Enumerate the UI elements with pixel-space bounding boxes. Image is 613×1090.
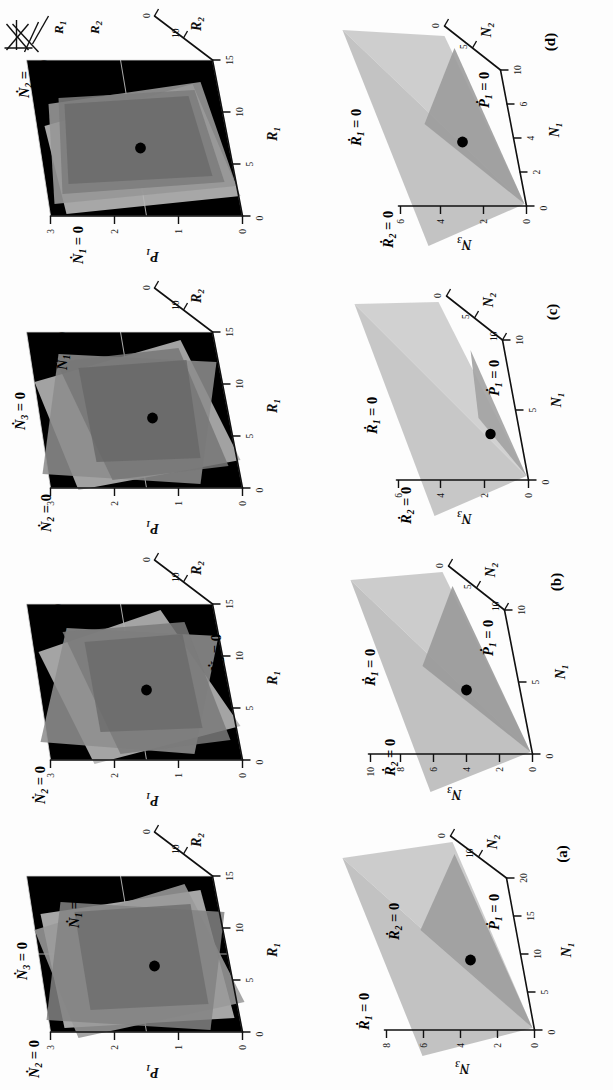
surface-label-n3: Ṅ3 = 0 — [13, 942, 31, 981]
z-axis-label: N3 — [446, 785, 462, 802]
tick: 5 — [244, 161, 254, 166]
tick: 15 — [224, 327, 234, 337]
tick: 0 — [254, 215, 264, 220]
tick: 0 — [521, 219, 531, 224]
tick: 5 — [458, 44, 468, 49]
tick: 2 — [109, 229, 119, 234]
tick: 4 — [455, 1043, 465, 1048]
tick: 6 — [395, 219, 405, 224]
panel-b-bottom-plot: 0 2 4 6 8 10 N3 0 5 — [302, 546, 592, 818]
tick: 4 — [525, 135, 535, 140]
tick: 2 — [109, 1045, 119, 1050]
tick: 0 — [254, 759, 264, 764]
tick: 2 — [109, 773, 119, 778]
x-axis-label: N1 — [546, 123, 563, 139]
tick: 3 — [45, 229, 55, 234]
tick: 10 — [464, 848, 474, 858]
y-axis-label: R2 — [188, 833, 205, 848]
surface-label-n3: Ṅ3 = 0 — [35, 60, 53, 99]
tick: 0 — [237, 501, 247, 506]
surface-label-n1: Ṅ1 = 0 — [65, 890, 83, 929]
tick: 6 — [518, 101, 528, 106]
tick: 10 — [512, 65, 522, 75]
surface-label-p1: Ṗ1 = 0 — [485, 360, 503, 396]
surface-label-p1: Ṗ1 = 0 — [479, 620, 497, 656]
tick: 1 — [173, 773, 183, 778]
panel-a-bottom-plot: 0 2 4 6 8 N3 0 — [302, 818, 592, 1090]
tick: 8 — [381, 1043, 391, 1048]
tick: 10 — [514, 335, 524, 345]
surface-label-n3: Ṅ3 = 0 — [207, 634, 225, 673]
tick: 5 — [539, 989, 549, 994]
tick: 1 — [173, 501, 183, 506]
panel-label: (a) — [553, 845, 570, 863]
tick: 10 — [170, 300, 180, 310]
tick: 0 — [544, 753, 554, 758]
tick: 2 — [109, 501, 119, 506]
panel-c: 0 1 2 3 P1 0 5 10 — [0, 274, 613, 546]
tick: 1 — [173, 1045, 183, 1050]
tick: 4 — [435, 493, 445, 498]
surface-label-n2: Ṅ2 = 0 — [31, 766, 49, 805]
z-axis-ticks: 0 1 2 3 — [45, 1032, 247, 1050]
tick: 5 — [244, 433, 254, 438]
z-axis-label: P1 — [145, 247, 158, 264]
tick: 10 — [170, 28, 180, 38]
tick: 15 — [224, 871, 234, 881]
surface-label-n1: Ṅ1 = 0 — [49, 604, 67, 643]
tick: 2 — [531, 169, 541, 174]
x-axis-label: N1 — [552, 665, 569, 681]
tick: 0 — [436, 833, 446, 838]
tick: 3 — [45, 1045, 55, 1050]
tick: 0 — [141, 13, 151, 18]
tick: 0 — [523, 493, 533, 498]
tick: 10 — [234, 107, 244, 117]
surface-label-n2: Ṅ2 = — [15, 71, 33, 99]
tick: 10 — [365, 767, 375, 777]
figure-page: R1 R2 — [0, 0, 613, 1090]
x-axis-label: R1 — [264, 127, 281, 142]
surface-label-r1: Ṙ1 = 0 — [363, 397, 381, 435]
z-axis-label: P1 — [145, 519, 158, 536]
tick: 5 — [244, 977, 254, 982]
y-axis-label: R2 — [188, 17, 205, 32]
tick: 10 — [170, 572, 180, 582]
tick: 15 — [224, 599, 234, 609]
surface-label-r2: Ṙ2 = 0 — [385, 903, 403, 941]
rotated-figure-canvas: R1 R2 — [0, 0, 613, 1090]
tick: 0 — [538, 205, 548, 210]
tick: 15 — [525, 911, 535, 921]
tick: 5 — [530, 679, 540, 684]
surface-label-p1: Ṗ1 = 0 — [485, 894, 503, 930]
y-axis-label: N2 — [480, 292, 497, 308]
tick: 0 — [434, 563, 444, 568]
panel-b: 0 1 2 3 P1 0 5 10 — [0, 546, 613, 818]
tick: 10 — [490, 601, 500, 611]
tick: 0 — [432, 293, 442, 298]
panel-label: (b) — [547, 573, 564, 591]
surface-label-p1: Ṗ1 = 0 — [475, 72, 493, 108]
tick: 10 — [234, 651, 244, 661]
tick: 2 — [492, 1043, 502, 1048]
z-axis-label: N3 — [456, 509, 472, 526]
panel-a-top-plot: 0 1 2 3 P1 0 5 — [4, 818, 294, 1090]
tick: 0 — [141, 557, 151, 562]
tick: 6 — [418, 1043, 428, 1048]
tick: 0 — [540, 479, 550, 484]
z-axis-label: P1 — [145, 1063, 158, 1080]
panel-label: (c) — [543, 304, 560, 321]
panel-a: 0 1 2 3 P1 0 5 — [0, 818, 613, 1090]
tick: 20 — [518, 873, 528, 883]
surface-label-r2: Ṙ2 = 0 — [379, 211, 397, 249]
tick: 5 — [460, 314, 470, 319]
y-axis-label: N2 — [484, 834, 501, 850]
tick: 0 — [141, 829, 151, 834]
x-axis-label: R1 — [264, 399, 281, 414]
tick: 0 — [254, 487, 264, 492]
tick: 0 — [237, 1045, 247, 1050]
panel-d-top-plot: 0 1 2 3 P1 0 5 10 — [4, 2, 294, 274]
z-axis-ticks: 0 1 2 3 — [45, 488, 247, 506]
panel-d-bottom-plot: 0 2 4 6 N3 0 2 — [302, 2, 592, 274]
x-axis-label: R1 — [264, 943, 281, 958]
tick: 10 — [234, 923, 244, 933]
